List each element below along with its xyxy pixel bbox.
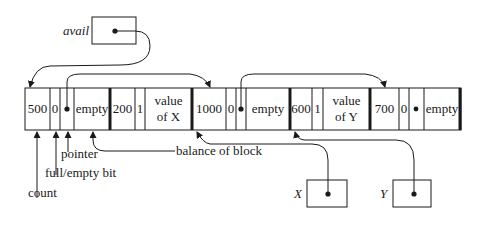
balance-arrow bbox=[93, 132, 175, 151]
cell-value-x-line1: value bbox=[145, 94, 192, 108]
cell-empty-5: empty bbox=[424, 102, 460, 116]
avail-label: avail bbox=[63, 24, 89, 38]
cell-count-2: 200 bbox=[110, 102, 135, 116]
y-arrow bbox=[295, 132, 414, 194]
cell-count-5: 700 bbox=[370, 102, 399, 116]
cell-value-y-line2: of Y bbox=[323, 110, 370, 124]
full-empty-bit-label: full/empty bit bbox=[45, 166, 116, 180]
cell-count-1: 500 bbox=[25, 102, 50, 116]
cell-count-3: 1000 bbox=[192, 102, 226, 116]
cell-bit-1: 0 bbox=[50, 102, 60, 116]
x-arrow bbox=[197, 132, 328, 194]
pointer-label: pointer bbox=[61, 147, 98, 161]
var-y-label: Y bbox=[380, 187, 387, 201]
cell-bit-2: 1 bbox=[135, 102, 145, 116]
cell-value-y-line1: value bbox=[323, 94, 370, 108]
cell-bit-5: 0 bbox=[399, 102, 409, 116]
count-label: count bbox=[28, 186, 57, 200]
cell-bit-4: 1 bbox=[312, 102, 323, 116]
cell-count-4: 600 bbox=[290, 102, 312, 116]
cell-empty-1: empty bbox=[74, 102, 110, 116]
cell-value-x-line2: of X bbox=[145, 110, 192, 124]
cell-bit-3: 0 bbox=[226, 102, 236, 116]
var-x-label: X bbox=[294, 187, 302, 201]
balance-of-block-label: balance of block bbox=[176, 144, 262, 158]
cell-empty-3: empty bbox=[246, 102, 290, 116]
avail-arrow bbox=[30, 31, 150, 87]
